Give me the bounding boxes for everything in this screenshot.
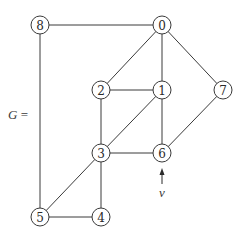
edge-0-2 — [101, 25, 162, 90]
pointer-label: v — [159, 185, 165, 200]
edge-7-6 — [162, 90, 223, 153]
node-label: 5 — [36, 211, 44, 225]
node-label: 6 — [158, 147, 166, 161]
pointer-arrow — [160, 168, 165, 184]
node-7: 7 — [214, 81, 232, 99]
edge-1-3 — [101, 90, 162, 153]
node-8: 8 — [31, 16, 49, 34]
node-label: 0 — [158, 19, 166, 33]
edge-3-5 — [40, 153, 101, 217]
graph-equals: = — [17, 107, 28, 122]
node-6: 6 — [153, 144, 171, 162]
edges-group — [40, 25, 223, 217]
node-1: 1 — [153, 81, 171, 99]
node-5: 5 — [31, 208, 49, 226]
node-0: 0 — [153, 16, 171, 34]
edge-0-7 — [162, 25, 223, 90]
node-label: 1 — [158, 84, 166, 98]
node-4: 4 — [92, 208, 110, 226]
graph-label: G = — [8, 107, 28, 122]
node-label: 4 — [97, 211, 105, 225]
node-2: 2 — [92, 81, 110, 99]
arrow-up-icon — [160, 168, 165, 175]
node-label: 2 — [97, 84, 105, 98]
node-label: 3 — [97, 147, 105, 161]
node-label: 8 — [36, 19, 44, 33]
node-label: 7 — [219, 84, 227, 98]
node-3: 3 — [92, 144, 110, 162]
graph-diagram: 012345678 G = v — [0, 0, 239, 247]
